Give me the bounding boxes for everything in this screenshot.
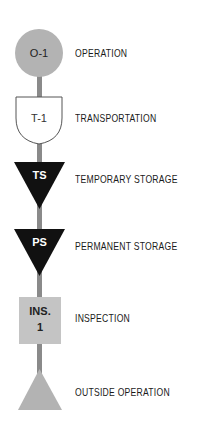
transportation-label: TRANSPORTATION	[75, 112, 156, 124]
inspection-label: INSPECTION	[75, 312, 130, 324]
inspection-square-icon: INS. 1	[19, 297, 61, 344]
symbol-chain: O-1 T-1 TS PS INS. 1	[0, 0, 211, 430]
outside-operation-triangle-icon	[18, 369, 62, 410]
operation-circle-icon: O-1	[15, 29, 63, 77]
process-symbol-legend: O-1 T-1 TS PS INS. 1 OPERATION TRANSPORT…	[0, 0, 211, 430]
inspection-code-line2: 1	[37, 321, 43, 333]
temporary-storage-triangle-icon: TS	[14, 162, 65, 209]
permanent-storage-label: PERMANENT STORAGE	[75, 240, 177, 252]
permanent-storage-code: PS	[32, 236, 47, 248]
temporary-storage-code: TS	[32, 169, 46, 181]
transportation-code: T-1	[31, 112, 47, 124]
permanent-storage-triangle-icon: PS	[14, 229, 65, 276]
inspection-code-line1: INS.	[29, 305, 50, 317]
temporary-storage-label: TEMPORARY STORAGE	[75, 173, 178, 185]
operation-code: O-1	[30, 47, 48, 59]
operation-label: OPERATION	[75, 47, 127, 59]
transportation-shield-icon: T-1	[16, 97, 62, 144]
outside-operation-label: OUTSIDE OPERATION	[75, 386, 170, 398]
